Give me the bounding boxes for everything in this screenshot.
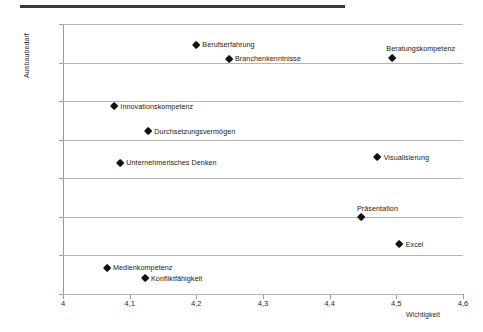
- diamond-marker-icon: [373, 153, 382, 162]
- data-point-label: Durchsetzungsvermögen: [154, 127, 235, 136]
- data-point-label: Innovationskompetenz: [120, 102, 193, 111]
- x-tick-label: 4: [43, 299, 83, 308]
- data-point-label: Visualisierung: [384, 153, 429, 162]
- y-tick-mark: [59, 63, 63, 64]
- diamond-marker-icon: [395, 240, 404, 249]
- y-tick-mark: [59, 140, 63, 141]
- diamond-marker-icon: [102, 263, 111, 272]
- y-tick-mark: [59, 101, 63, 102]
- diamond-marker-icon: [140, 274, 149, 283]
- data-point-label: Berufserfahrung: [202, 40, 254, 49]
- x-tick-label: 4,2: [176, 299, 216, 308]
- x-tick-label: 4,5: [376, 299, 416, 308]
- gridline-horizontal: [63, 178, 463, 179]
- x-tick-label: 4,1: [110, 299, 150, 308]
- x-tick-label: 4,4: [310, 299, 350, 308]
- diamond-marker-icon: [116, 158, 125, 167]
- y-tick-mark: [59, 217, 63, 218]
- diamond-marker-icon: [144, 127, 153, 136]
- plot-area: BerufserfahrungBranchenkenntnisseBeratun…: [63, 24, 463, 294]
- diamond-marker-icon: [110, 102, 119, 111]
- gridline-horizontal: [63, 255, 463, 256]
- gridline-horizontal: [63, 24, 463, 25]
- y-tick-mark: [59, 255, 63, 256]
- data-point-label: Beratungskompetenz: [386, 44, 455, 53]
- data-point-label: Präsentation: [357, 204, 398, 213]
- gridline-horizontal: [63, 140, 463, 141]
- data-point-label: Branchenkenntnisse: [235, 54, 301, 63]
- header-rule: [20, 5, 345, 8]
- gridline-horizontal: [63, 217, 463, 218]
- diamond-marker-icon: [388, 53, 397, 62]
- x-axis-title: Wichtigkeit: [406, 311, 440, 318]
- x-tick-label: 4,3: [243, 299, 283, 308]
- data-point-label: Konfliktfähigkeit: [151, 274, 202, 283]
- y-axis-title: Ausbaubedarf: [23, 16, 30, 96]
- diamond-marker-icon: [356, 213, 365, 222]
- scatter-chart-figure: Ausbaubedarf Wichtigkeit Berufserfahrung…: [0, 0, 483, 332]
- y-tick-mark: [59, 24, 63, 25]
- x-tick-label: 4,6: [443, 299, 483, 308]
- data-point-label: Excel: [406, 240, 424, 249]
- data-point-label: Medienkompetenz: [113, 263, 172, 272]
- diamond-marker-icon: [192, 40, 201, 49]
- y-tick-mark: [59, 178, 63, 179]
- data-point-label: Unternehmerisches Denken: [126, 158, 216, 167]
